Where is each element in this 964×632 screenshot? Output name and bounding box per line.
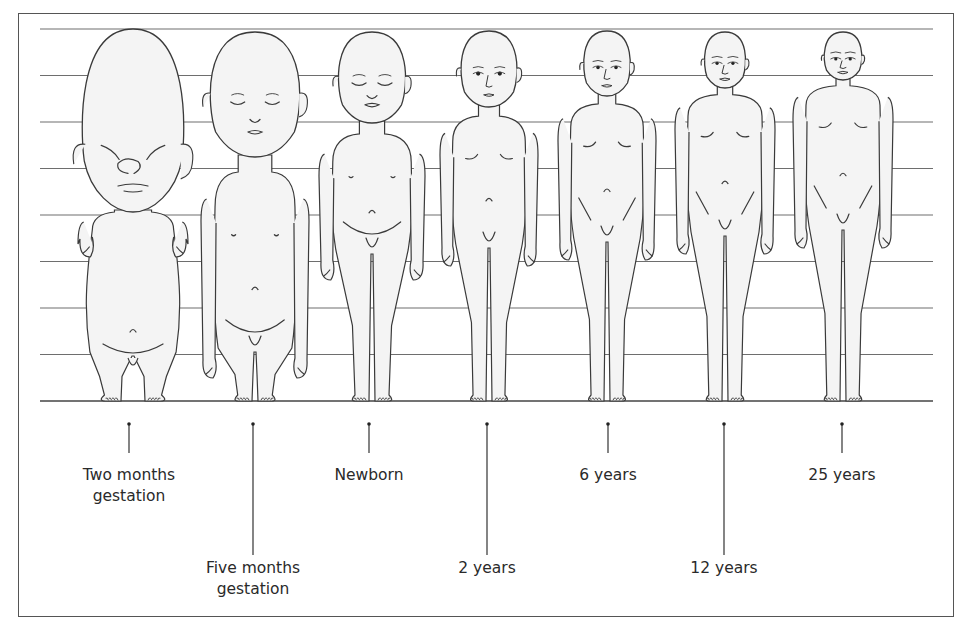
body-proportion-diagram [0,0,964,632]
label-line: 12 years [690,558,757,579]
ear [405,76,411,93]
label-line: 2 years [458,558,515,579]
label-line: Newborn [334,465,403,486]
ear [517,68,522,83]
label-25-years: 25 years [808,465,875,486]
tick-dot [840,422,844,426]
label-line: Two months [83,465,175,486]
label-line: gestation [83,486,175,507]
head [584,31,631,96]
body [805,78,881,401]
left-arm [761,108,775,254]
head [824,32,861,80]
tick-dot [251,422,255,426]
right-arm [558,119,572,260]
left-arm [642,119,656,260]
tick-dot [606,422,610,426]
label-12-years: 12 years [690,558,757,579]
right-arm [201,199,216,378]
label-line: Five months [206,558,300,579]
ear [203,93,211,107]
ear [181,144,193,179]
right-arm [793,97,807,248]
body [452,105,527,401]
label-newborn: Newborn [334,465,403,486]
ear [745,59,749,70]
label-2-years: 2 years [458,558,515,579]
label-line: 25 years [808,465,875,486]
label-two-months-gestation: Two monthsgestation [83,465,175,507]
figure-five-months-gestation [201,32,309,401]
label-ticks [127,422,844,555]
tick-dot [127,422,131,426]
figure-newborn [319,32,425,401]
head [704,32,745,88]
left-arm [410,154,425,280]
figure-12-years [675,32,775,401]
label-line: 6 years [579,465,636,486]
figure-2-years [440,31,538,401]
right-arm [440,133,454,266]
right-arm [675,108,689,254]
left-arm [524,133,538,266]
head [461,31,517,107]
head [338,32,405,123]
tick-dot [722,422,726,426]
tick-dot [367,422,371,426]
ear [299,93,307,117]
body [86,210,179,401]
label-line: gestation [206,579,300,600]
tick-dot [485,422,489,426]
right-arm [319,154,334,280]
body [214,155,296,401]
left-arm [294,199,309,378]
left-arm [879,97,893,248]
ear [630,62,634,75]
genital [128,358,138,365]
label-five-months-gestation: Five monthsgestation [206,558,300,600]
figure-6-years [558,31,656,401]
head [210,32,299,157]
body [687,86,763,401]
label-6-years: 6 years [579,465,636,486]
ear [861,55,864,65]
figure-25-years [793,32,893,401]
